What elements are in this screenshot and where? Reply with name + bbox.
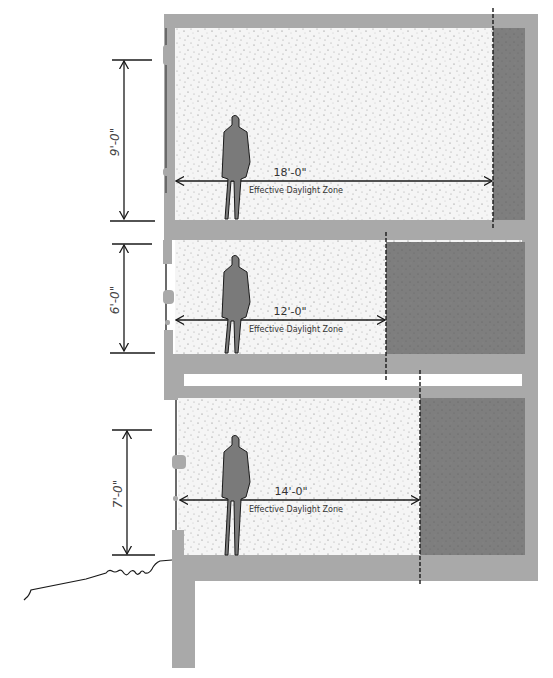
daylight-depth-label-bottom: 14'-0" (274, 485, 307, 498)
window-height-label-top: 9'-0" (108, 128, 122, 156)
daylight-depth-label-top: 18'-0" (273, 166, 306, 179)
ground-line (24, 560, 172, 600)
zone-label-middle: Effective Daylight Zone (249, 325, 343, 334)
zone-label-bottom: Effective Daylight Zone (249, 505, 343, 514)
dark-zone-bottom (420, 398, 525, 555)
dark-zone-middle (386, 242, 525, 354)
zone-label-top: Effective Daylight Zone (249, 186, 343, 195)
daylight-depth-label-middle: 12'-0" (273, 305, 306, 318)
window-height-label-middle: 6'-0" (108, 286, 122, 314)
building-section-diagram: 9'-0" 6'-0" 7'-0" 18'-0" Effective Dayli… (0, 0, 553, 678)
window-height-label-bottom: 7'-0" (111, 480, 125, 508)
dark-zone-top (493, 28, 525, 220)
